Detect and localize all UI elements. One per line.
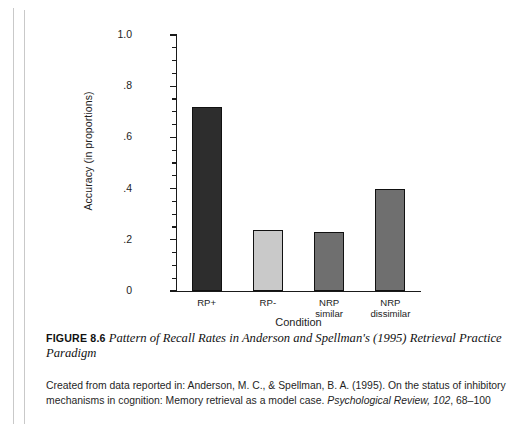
bar	[314, 232, 344, 291]
bar-chart: Accuracy (in proportions) 0.2.4.6.81.0 R…	[34, 0, 529, 322]
x-axis-title: Condition	[176, 316, 421, 328]
page-edge-outer	[13, 8, 14, 424]
figure-source-note: Created from data reported in: Anderson,…	[46, 379, 529, 408]
bars-layer	[34, 0, 529, 322]
figure-label: FIGURE 8.6	[46, 332, 106, 344]
bar	[375, 189, 405, 291]
figure-title: Pattern of Recall Rates in Anderson and …	[46, 331, 502, 360]
bar	[192, 107, 222, 291]
source-journal: Psychological Review, 102	[327, 395, 450, 406]
figure-8-6: Accuracy (in proportions) 0.2.4.6.81.0 R…	[34, 0, 529, 424]
bar	[253, 230, 283, 291]
source-pages: , 68–100	[450, 395, 490, 406]
page-edge-inner	[24, 10, 25, 424]
figure-caption: FIGURE 8.6 Pattern of Recall Rates in An…	[46, 331, 524, 361]
